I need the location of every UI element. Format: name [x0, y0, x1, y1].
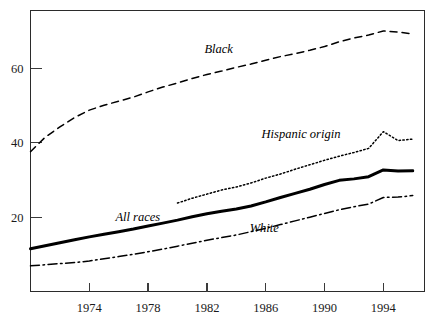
y-tick-label: 20: [11, 211, 24, 225]
line-chart-svg: 204060 197419781982198619901994 BlackHis…: [0, 0, 440, 328]
series-label: Black: [204, 42, 233, 56]
series-label: All races: [114, 210, 160, 224]
chart-figure: 204060 197419781982198619901994 BlackHis…: [0, 0, 440, 328]
x-tick-label: 1986: [253, 301, 278, 315]
y-tick-label: 40: [11, 136, 24, 150]
x-tick-label: 1990: [312, 301, 337, 315]
x-tick-label: 1978: [136, 301, 161, 315]
x-tick-label: 1974: [77, 301, 103, 315]
series-label: Hispanic origin: [261, 127, 341, 141]
y-tick-label: 60: [11, 62, 24, 76]
x-tick-label: 1994: [371, 301, 397, 315]
series-label: White: [250, 221, 280, 235]
x-tick-label: 1982: [194, 301, 219, 315]
